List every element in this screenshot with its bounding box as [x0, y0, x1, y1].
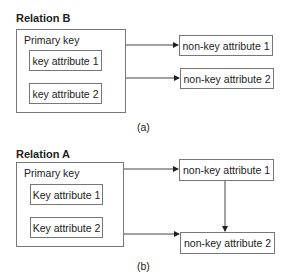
nonkey-attribute-1-box: non-key attribute 1 [179, 159, 274, 181]
relation-b-title: Relation B [16, 12, 70, 24]
key-attribute-1-box: key attribute 1 [29, 50, 102, 71]
nonkey-attribute-1-box: non-key attribute 1 [179, 35, 273, 56]
nonkey-attribute-2-box: non-key attribute 2 [180, 232, 275, 254]
key-attribute-2-box: Key attribute 2 [30, 217, 103, 238]
key-attribute-2-box: key attribute 2 [29, 83, 102, 104]
caption-a: (a) [137, 121, 150, 133]
primary-key-label: Primary key [24, 34, 79, 46]
relation-b-primary-key-box: Primary key key attribute 1 key attribut… [16, 29, 126, 113]
relation-a-primary-key-box: Primary key Key attribute 1 Key attribut… [16, 162, 124, 247]
relation-a-title: Relation A [16, 148, 70, 160]
primary-key-label: Primary key [24, 167, 79, 179]
caption-b: (b) [137, 260, 150, 272]
key-attribute-1-box: Key attribute 1 [30, 184, 103, 205]
nonkey-attribute-2-box: non-key attribute 2 [180, 68, 274, 89]
